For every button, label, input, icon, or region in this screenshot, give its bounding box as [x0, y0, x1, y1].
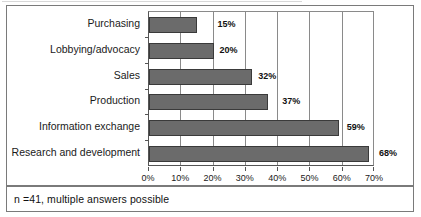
x-axis-label: 20% [199, 174, 227, 183]
x-axis-label: 70% [360, 174, 388, 183]
x-axis-tick-10 [180, 167, 181, 171]
x-axis-tick-60 [342, 167, 343, 171]
x-axis-tick-30 [245, 167, 246, 171]
gridline-50 [309, 12, 310, 165]
bar [149, 94, 268, 110]
bar [149, 17, 197, 33]
category-label: Research and development [12, 147, 140, 158]
bar [149, 69, 252, 85]
category-label: Sales [114, 70, 140, 81]
bar [149, 43, 214, 59]
gridline-10 [180, 12, 181, 165]
category-label: Lobbying/advocacy [50, 44, 140, 55]
x-axis-tick-0 [148, 167, 149, 171]
x-axis-label: 50% [295, 174, 323, 183]
bar [149, 146, 369, 162]
bar-value-label: 20% [220, 46, 238, 55]
gridline-40 [277, 12, 278, 165]
bar-value-label: 15% [218, 20, 236, 29]
bar [149, 120, 339, 136]
x-axis-label: 60% [328, 174, 356, 183]
footnote-text: n =41, multiple answers possible [14, 193, 169, 205]
bar-value-label: 32% [258, 72, 276, 81]
gridline-20 [213, 12, 214, 165]
gridline-30 [245, 12, 246, 165]
gridline-60 [342, 12, 343, 165]
x-axis-tick-20 [213, 167, 214, 171]
category-label: Purchasing [87, 18, 140, 29]
x-axis-tick-40 [277, 167, 278, 171]
x-axis-tick-50 [309, 167, 310, 171]
figure: PurchasingLobbying/advocacySalesProducti… [0, 0, 421, 217]
plot-area [148, 11, 374, 166]
x-axis-tick-70 [373, 167, 374, 171]
bar-value-label: 37% [282, 97, 300, 106]
category-label: Production [90, 95, 140, 106]
scan-artifact-line [2, 1, 302, 2]
x-axis-label: 30% [231, 174, 259, 183]
footnote-container: n =41, multiple answers possible [6, 186, 414, 212]
x-axis-label: 0% [134, 174, 162, 183]
category-label: Information exchange [39, 121, 140, 132]
bar-value-label: 68% [379, 149, 397, 158]
x-axis-label: 10% [166, 174, 194, 183]
bar-value-label: 59% [347, 123, 365, 132]
chart-container: PurchasingLobbying/advocacySalesProducti… [6, 5, 414, 186]
x-axis-label: 40% [263, 174, 291, 183]
